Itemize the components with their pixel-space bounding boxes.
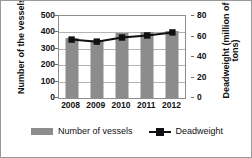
y-axis-right-tickmark <box>191 15 194 16</box>
x-axis-tick-label: 2012 <box>159 101 184 115</box>
deadweight-marker <box>94 38 100 44</box>
line-square-swatch-icon <box>149 127 171 136</box>
chart-figure: Number of the vessels Deadweight (millio… <box>0 0 252 158</box>
plot-area <box>58 15 186 99</box>
legend-label-number-of-vessels: Number of vessels <box>58 127 133 136</box>
x-axis-tick-label: 2011 <box>134 101 159 115</box>
deadweight-marker <box>169 29 175 35</box>
y-axis-right-title: Deadweight (million of tons) <box>222 0 241 103</box>
y-axis-right-tick-label: 60 <box>197 32 206 41</box>
legend-item-number-of-vessels: Number of vessels <box>31 127 133 136</box>
y-axis-left-tick-label: 100 <box>29 77 55 86</box>
deadweight-marker <box>119 34 125 40</box>
y-axis-right-tick-label: 40 <box>197 52 206 61</box>
x-axis-tick-label: 2010 <box>108 101 133 115</box>
bar-swatch-icon <box>31 128 53 135</box>
y-axis-left-tick-label: 0 <box>29 93 55 102</box>
y-axis-right-tickmark <box>191 56 194 57</box>
deadweight-markers <box>68 29 175 45</box>
y-axis-left-tick-label: 300 <box>29 44 55 53</box>
chart-legend: Number of vessels Deadweight <box>1 127 252 136</box>
line-series-deadweight <box>59 16 185 98</box>
y-axis-left-tick-label: 500 <box>29 11 55 20</box>
y-axis-left-tick-label: 200 <box>29 60 55 69</box>
x-axis-tick-label: 2008 <box>58 101 83 115</box>
y-axis-right-tick-label: 20 <box>197 73 206 82</box>
legend-label-deadweight: Deadweight <box>176 127 224 136</box>
x-axis-tick-label: 2009 <box>83 101 108 115</box>
y-axis-right-tickmark <box>191 36 194 37</box>
y-axis-right-tickmark <box>191 97 194 98</box>
deadweight-marker <box>68 36 74 42</box>
legend-item-deadweight: Deadweight <box>149 127 224 136</box>
x-axis-tick-labels: 20082009201020112012 <box>58 101 184 115</box>
y-axis-right-tick-label: 80 <box>197 11 206 20</box>
y-axis-right-tick-label: 0 <box>197 93 202 102</box>
y-axis-left-tick-label: 400 <box>29 27 55 36</box>
deadweight-marker <box>144 32 150 38</box>
y-axis-right-tickmark <box>191 77 194 78</box>
